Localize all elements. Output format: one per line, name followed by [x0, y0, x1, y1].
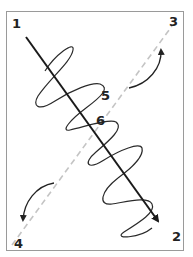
rotation-arrow-upper-icon [129, 50, 161, 88]
label-point-4: 4 [14, 237, 23, 250]
dashed-axis-4-to-3 [12, 26, 172, 245]
label-point-5: 5 [101, 89, 110, 102]
label-point-2: 2 [172, 230, 181, 243]
helix-diagram: 1 2 3 4 5 6 [0, 0, 193, 257]
label-point-1: 1 [12, 17, 21, 30]
label-point-3: 3 [169, 15, 178, 28]
diagram-canvas [0, 0, 193, 257]
rotation-arrow-lower-icon [23, 183, 54, 220]
main-axis-arrow-1-to-2 [26, 37, 158, 221]
label-point-6: 6 [96, 114, 105, 127]
